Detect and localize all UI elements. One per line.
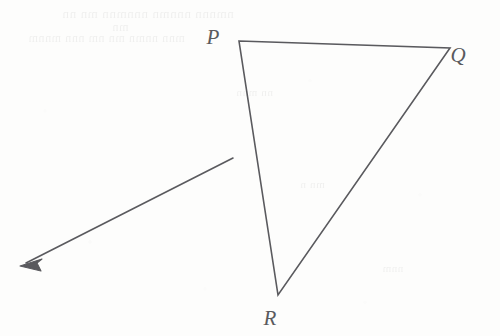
vertex-label-r: R — [263, 306, 277, 330]
ray-arrow — [20, 158, 233, 271]
triangle-outline-path — [239, 41, 450, 295]
figure-svg: P Q R — [0, 0, 500, 336]
vertex-label-p: P — [206, 25, 220, 49]
geometry-figure-canvas: nmnnn nnnmn nnnmnn mn nn mn mnn nnmn mn … — [0, 0, 500, 336]
vertex-labels: P Q R — [206, 25, 466, 330]
arrow-shaft-line — [26, 158, 233, 263]
triangle-PQR — [239, 41, 450, 295]
vertex-label-q: Q — [450, 43, 465, 67]
